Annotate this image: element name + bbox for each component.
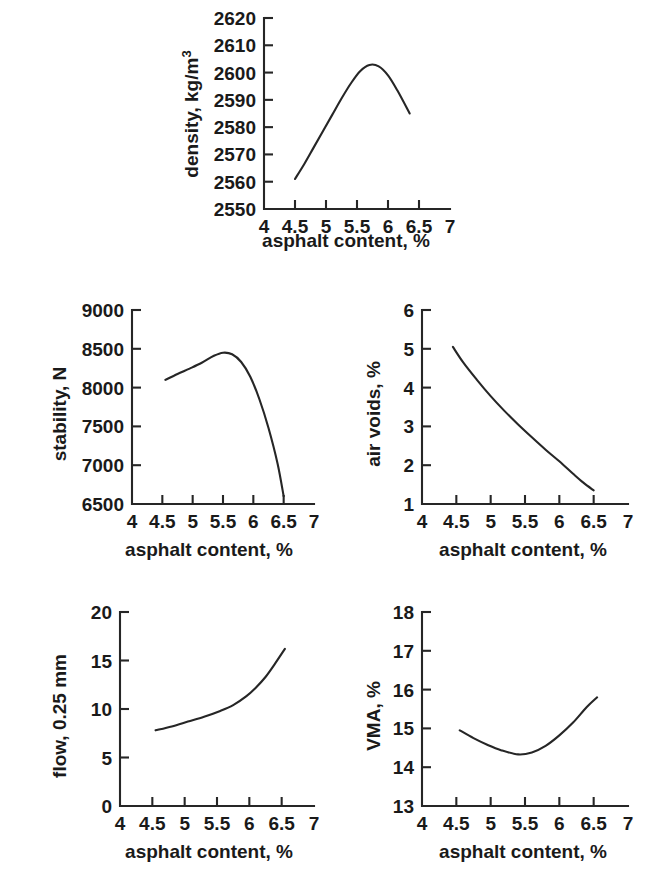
svg-text:7: 7	[623, 813, 634, 834]
svg-text:4: 4	[417, 511, 428, 532]
svg-text:15: 15	[393, 718, 415, 739]
svg-text:6.5: 6.5	[268, 813, 295, 834]
stability-plot: 65007000750080008500900044.555.566.57	[82, 300, 320, 532]
stability-chart-svg: 65007000750080008500900044.555.566.57 st…	[46, 294, 336, 564]
svg-text:7: 7	[309, 511, 320, 532]
svg-text:18: 18	[393, 602, 414, 623]
svg-text:5: 5	[485, 813, 496, 834]
flow-plot: 0510152044.555.566.57	[91, 602, 319, 834]
svg-text:16: 16	[393, 680, 414, 701]
svg-text:13: 13	[393, 796, 414, 817]
density-plot: 2550256025702580259026002610262044.555.5…	[214, 8, 456, 237]
svg-text:6: 6	[554, 813, 565, 834]
svg-text:20: 20	[91, 602, 112, 623]
chart-panel-air-voids: 12345644.555.566.57 air voids, % asphalt…	[360, 294, 650, 564]
vma-y-axis-title: VMA, %	[363, 681, 384, 751]
svg-text:4.5: 4.5	[443, 813, 470, 834]
svg-text:9000: 9000	[82, 300, 124, 321]
svg-text:6: 6	[554, 511, 565, 532]
chart-panel-stability: 65007000750080008500900044.555.566.57 st…	[46, 294, 336, 564]
svg-text:6.5: 6.5	[580, 813, 607, 834]
svg-text:3: 3	[403, 416, 414, 437]
air-voids-y-axis-title: air voids, %	[363, 361, 384, 467]
air-voids-x-axis-title: asphalt content, %	[439, 539, 607, 560]
svg-text:8000: 8000	[82, 378, 124, 399]
density-x-axis-title: asphalt content, %	[262, 230, 430, 251]
svg-text:2610: 2610	[214, 35, 256, 56]
air-voids-plot: 12345644.555.566.57	[403, 300, 633, 532]
vma-chart-svg: 13141516171844.555.566.57 VMA, % asphalt…	[360, 596, 650, 866]
svg-text:4: 4	[417, 813, 428, 834]
svg-text:6.5: 6.5	[580, 511, 607, 532]
svg-text:2590: 2590	[214, 90, 256, 111]
svg-text:5: 5	[403, 339, 414, 360]
chart-panel-flow: 0510152044.555.566.57 flow, 0.25 mm asph…	[46, 596, 336, 866]
svg-text:2550: 2550	[214, 199, 256, 220]
figure-sheet: 2550256025702580259026002610262044.555.5…	[0, 0, 651, 879]
svg-text:2580: 2580	[214, 117, 256, 138]
svg-text:6500: 6500	[82, 494, 124, 515]
flow-y-axis-title: flow, 0.25 mm	[49, 654, 70, 778]
svg-text:4.5: 4.5	[443, 511, 470, 532]
svg-text:4: 4	[115, 813, 126, 834]
svg-text:2620: 2620	[214, 8, 256, 29]
stability-x-axis-title: asphalt content, %	[125, 539, 293, 560]
svg-text:4.5: 4.5	[149, 511, 176, 532]
svg-text:6: 6	[248, 511, 259, 532]
svg-text:8500: 8500	[82, 339, 124, 360]
vma-x-axis-title: asphalt content, %	[439, 841, 607, 862]
svg-text:6: 6	[244, 813, 255, 834]
svg-text:5.5: 5.5	[210, 511, 237, 532]
svg-text:15: 15	[91, 651, 113, 672]
density-y-axis-title: density, kg/m3	[179, 50, 203, 177]
svg-text:2: 2	[403, 455, 414, 476]
svg-text:2600: 2600	[214, 63, 256, 84]
svg-text:7500: 7500	[82, 416, 124, 437]
svg-text:7000: 7000	[82, 455, 124, 476]
svg-text:4.5: 4.5	[139, 813, 166, 834]
svg-text:1: 1	[403, 494, 414, 515]
svg-text:5.5: 5.5	[512, 813, 539, 834]
svg-text:5: 5	[101, 748, 112, 769]
svg-text:6.5: 6.5	[270, 511, 297, 532]
svg-text:0: 0	[101, 796, 112, 817]
flow-x-axis-title: asphalt content, %	[125, 841, 293, 862]
svg-text:4: 4	[127, 511, 138, 532]
density-chart-svg: 2550256025702580259026002610262044.555.5…	[176, 4, 476, 254]
vma-plot: 13141516171844.555.566.57	[393, 602, 633, 834]
chart-panel-density: 2550256025702580259026002610262044.555.5…	[176, 4, 476, 254]
svg-text:5: 5	[485, 511, 496, 532]
svg-text:5.5: 5.5	[512, 511, 539, 532]
svg-text:7: 7	[623, 511, 634, 532]
svg-text:17: 17	[393, 641, 414, 662]
svg-text:5: 5	[187, 511, 198, 532]
svg-text:5: 5	[179, 813, 190, 834]
svg-text:7: 7	[309, 813, 320, 834]
svg-text:10: 10	[91, 699, 112, 720]
flow-chart-svg: 0510152044.555.566.57 flow, 0.25 mm asph…	[46, 596, 336, 866]
svg-text:2570: 2570	[214, 144, 256, 165]
svg-text:7: 7	[445, 216, 456, 237]
svg-text:6: 6	[403, 300, 414, 321]
air-voids-chart-svg: 12345644.555.566.57 air voids, % asphalt…	[360, 294, 650, 564]
svg-text:14: 14	[393, 757, 415, 778]
svg-text:2560: 2560	[214, 172, 256, 193]
stability-y-axis-title: stability, N	[49, 367, 70, 462]
svg-text:4: 4	[403, 378, 414, 399]
figure-caption	[86, 866, 586, 879]
svg-text:5.5: 5.5	[204, 813, 231, 834]
chart-panel-vma: 13141516171844.555.566.57 VMA, % asphalt…	[360, 596, 650, 866]
